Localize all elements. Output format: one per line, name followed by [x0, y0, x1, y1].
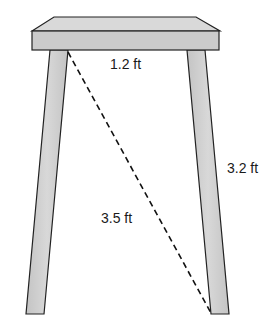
left-leg	[26, 50, 68, 314]
diagonal-label: 3.5 ft	[101, 210, 132, 226]
leg-height-label: 3.2 ft	[227, 160, 258, 176]
top-width-label: 1.2 ft	[110, 56, 141, 72]
diagonal-dashed-line	[68, 52, 211, 313]
seat-top-face	[32, 17, 220, 31]
seat-front-face	[32, 31, 219, 50]
right-leg	[187, 50, 229, 314]
